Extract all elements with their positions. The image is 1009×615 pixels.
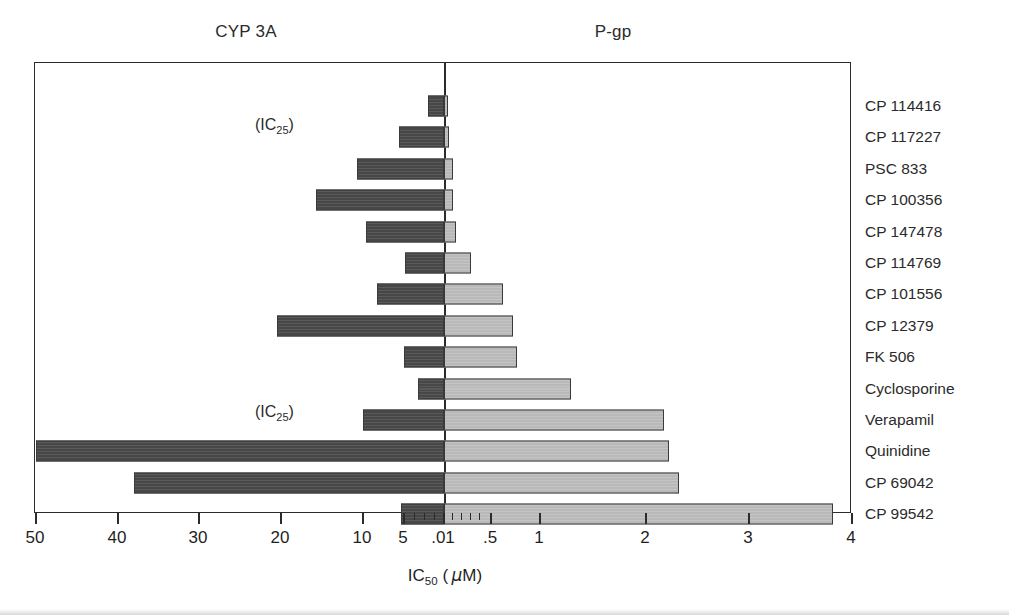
bar-cyp3a (399, 127, 444, 148)
bar-row (35, 437, 852, 465)
category-label: CP 100356 (865, 192, 942, 208)
bar-row (35, 155, 852, 183)
category-label: CP 147478 (865, 224, 942, 240)
bar-row (35, 123, 852, 151)
bar-row (35, 186, 852, 214)
bar-cyp3a (363, 410, 444, 431)
bar-cyp3a (377, 284, 444, 305)
axis-tick-label: 10 (353, 528, 372, 548)
panel-header-pgp: P-gp (563, 22, 663, 42)
axis-tick-label: 50 (26, 528, 45, 548)
bar-row (35, 92, 852, 120)
bar-pgp (444, 378, 571, 399)
category-label: CP 117227 (865, 129, 941, 145)
bar-pgp (444, 253, 471, 274)
axis-title-units-m: M (462, 566, 476, 585)
category-label: FK 506 (865, 349, 915, 365)
annot-text: (IC (255, 403, 276, 420)
axis-tick-label: .5 (483, 528, 497, 548)
bar-pgp (444, 504, 833, 525)
bar-pgp (444, 221, 456, 242)
bar-cyp3a (404, 347, 444, 368)
axis-tick-label: 3 (743, 528, 752, 548)
axis-tick-label: 20 (271, 528, 290, 548)
bar-pgp (444, 284, 503, 305)
x-axis-title: IC50 ( μM) (0, 565, 890, 587)
bar-row (35, 218, 852, 246)
annot-subscript: 25 (276, 124, 288, 136)
category-label: CP 114416 (865, 98, 941, 114)
ic25-annotation: (IC25) (255, 116, 294, 136)
bar-cyp3a (134, 472, 444, 493)
ic25-annotation: (IC25) (255, 403, 294, 423)
bar-pgp (444, 472, 679, 493)
bar-row (35, 375, 852, 403)
axis-title-units-close: ) (476, 566, 482, 585)
axis-tick-label: 30 (189, 528, 208, 548)
bar-pgp (444, 190, 453, 211)
axis-title-units-open: ( (438, 566, 452, 585)
category-label: PSC 833 (865, 161, 927, 177)
figure-ic50-chart: CYP 3A P-gp (IC25)(IC25) CP 114416CP 117… (0, 0, 1009, 615)
bar-pgp (444, 127, 449, 148)
annot-tail: ) (289, 403, 294, 420)
axis-tick-label: 40 (108, 528, 127, 548)
category-label: Cyclosporine (865, 381, 955, 397)
bar-cyp3a (316, 190, 444, 211)
bar-row (35, 249, 852, 277)
bar-pgp (444, 441, 669, 462)
annot-text: (IC (255, 116, 276, 133)
bar-cyp3a (366, 221, 444, 242)
axis-tick-label: .01 (431, 528, 455, 548)
plot-frame (34, 62, 851, 513)
page-edge-artifact (0, 609, 1009, 615)
bar-cyp3a (405, 253, 444, 274)
bar-row (35, 280, 852, 308)
category-label: CP 12379 (865, 318, 934, 334)
axis-tick-label: 4 (846, 528, 855, 548)
category-label: Verapamil (865, 412, 934, 428)
category-label: Quinidine (865, 443, 931, 459)
bar-pgp (444, 410, 664, 431)
bar-row (35, 469, 852, 497)
axis-tick-label: 2 (640, 528, 649, 548)
panel-header-cyp3a: CYP 3A (196, 22, 296, 42)
bar-pgp (444, 96, 448, 117)
bar-row (35, 406, 852, 434)
bar-pgp (444, 347, 517, 368)
bar-cyp3a (401, 504, 444, 525)
bar-row (35, 500, 852, 528)
category-label: CP 99542 (865, 506, 934, 522)
category-label: CP 114769 (865, 255, 941, 271)
category-label: CP 101556 (865, 286, 942, 302)
annot-tail: ) (289, 116, 294, 133)
axis-tick-label: 1 (534, 528, 543, 548)
bar-cyp3a (36, 441, 444, 462)
axis-title-subscript: 50 (425, 575, 438, 587)
axis-title-ic: IC (408, 566, 425, 585)
axis-tick-label: 5 (398, 528, 407, 548)
axis-title-mu: μ (451, 565, 462, 585)
category-label: CP 69042 (865, 475, 934, 491)
bar-row (35, 343, 852, 371)
bar-pgp (444, 158, 453, 179)
bar-pgp (444, 315, 513, 336)
annot-subscript: 25 (276, 411, 288, 423)
bar-cyp3a (428, 96, 444, 117)
bar-row (35, 312, 852, 340)
bar-cyp3a (357, 158, 444, 179)
bar-cyp3a (418, 378, 444, 399)
bar-cyp3a (277, 315, 444, 336)
